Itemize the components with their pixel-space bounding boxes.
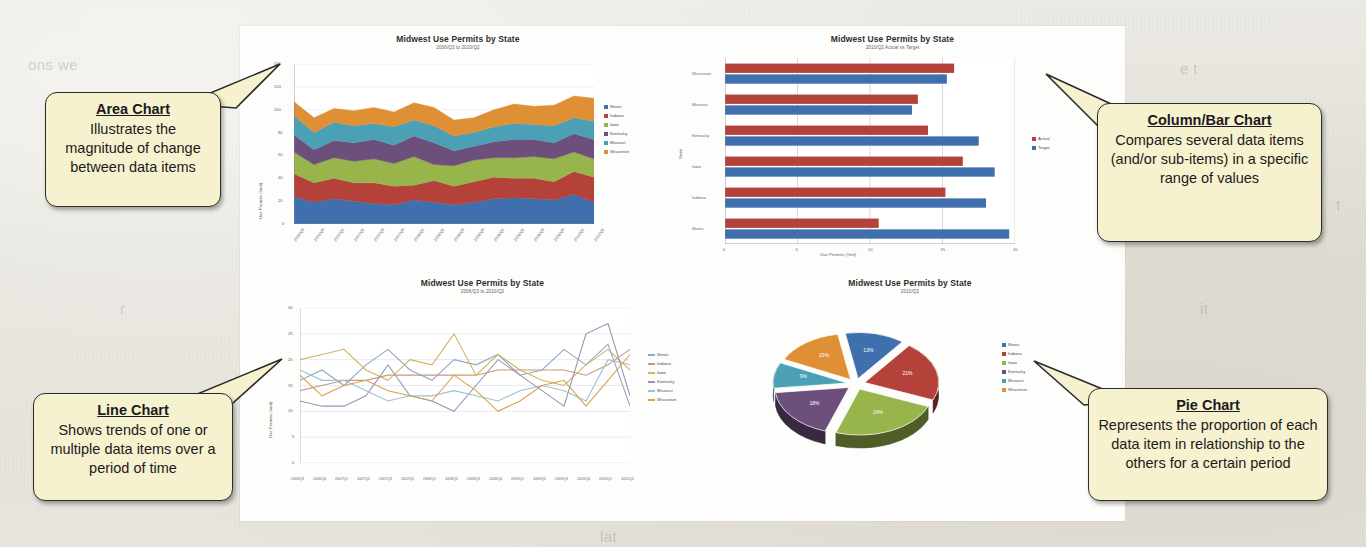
legend-item[interactable]: Missouri: [604, 138, 629, 147]
legend-swatch-icon: [1002, 361, 1006, 365]
legend-label: Wisconsin: [657, 397, 676, 402]
legend-item[interactable]: Indiana: [604, 111, 629, 120]
legend-item[interactable]: Kentucky: [604, 129, 629, 138]
axis-tick-label: 140: [274, 61, 281, 66]
axis-tick-label: 5: [796, 247, 798, 252]
legend-swatch-icon: [1002, 379, 1006, 383]
legend-swatch-icon: [1032, 146, 1036, 150]
axis-tick-label: 2006/Q3: [291, 477, 304, 481]
legend-label: Missouri: [610, 140, 626, 145]
area-chart-title: Midwest Use Permits by State: [248, 34, 668, 44]
ghost-text: e t: [1180, 60, 1198, 77]
line-chart-subtitle: 2006/Q3 to 2010/Q2: [260, 288, 705, 295]
callout-area-chart-body: Illustrates the magnitude of change betw…: [55, 120, 211, 177]
legend-swatch-icon: [1032, 137, 1036, 141]
callout-area-chart-title: Area Chart: [55, 100, 211, 119]
legend-item[interactable]: Iowa: [604, 120, 629, 129]
area-chart-subtitle: 2006/Q3 to 2010/Q2: [248, 44, 668, 51]
axis-tick-label: 2008/Q1: [413, 227, 426, 242]
legend-item[interactable]: Illinois: [1002, 340, 1027, 349]
legend-label: Missouri: [1008, 378, 1024, 383]
axis-tick-label: 0: [723, 247, 725, 252]
legend-label: Target: [1038, 145, 1050, 150]
axis-tick-label: Missouri: [692, 102, 708, 107]
callout-line-chart-body: Shows trends of one or multiple data ite…: [43, 421, 223, 478]
legend-item[interactable]: Iowa: [1002, 358, 1027, 367]
legend-swatch-icon: [604, 132, 608, 136]
legend-line-icon: [648, 390, 655, 392]
area-chart-plot: [294, 64, 594, 224]
legend-item[interactable]: Wisconsin: [648, 395, 676, 404]
legend-label: Wisconsin: [1008, 387, 1027, 392]
axis-tick-label: 2009/Q4: [553, 227, 566, 242]
axis-tick-label: 2010/Q2: [593, 227, 606, 242]
legend-item[interactable]: Missouri: [648, 386, 676, 395]
axis-tick-label: 15: [941, 247, 946, 252]
callout-column-bar-chart[interactable]: Column/Bar Chart Compares several data i…: [1097, 103, 1322, 242]
legend-item[interactable]: Indiana: [648, 359, 676, 368]
axis-tick-label: 5: [292, 434, 294, 439]
axis-tick-label: 2009/Q4: [577, 477, 590, 481]
axis-tick-label: 2006/Q4: [313, 477, 326, 481]
pie-chart: Midwest Use Permits by State 2010/Q2 13%…: [710, 278, 1110, 516]
legend-item[interactable]: Wisconsin: [1002, 385, 1027, 394]
axis-tick-label: 2010/Q1: [573, 227, 586, 242]
axis-tick-label: 2008/Q3: [453, 227, 466, 242]
axis-tick-label: Illinois: [692, 226, 704, 231]
legend-label: Iowa: [1008, 360, 1017, 365]
axis-tick-label: 2009/Q2: [513, 227, 526, 242]
axis-tick-label: 30: [288, 305, 293, 310]
callout-area-chart[interactable]: Area Chart Illustrates the magnitude of …: [45, 92, 221, 207]
legend-swatch-icon: [604, 150, 608, 154]
axis-tick-label: 2008/Q4: [489, 477, 502, 481]
legend-item[interactable]: Missouri: [1002, 376, 1027, 385]
axis-tick-label: 0: [292, 460, 294, 465]
axis-tick-label: 120: [274, 84, 281, 89]
axis-tick-label: 2009/Q3: [533, 227, 546, 242]
callout-pie-chart-body: Represents the proportion of each data i…: [1098, 416, 1318, 473]
line-chart-ylabel: Use Permits (#mil): [268, 402, 273, 438]
legend-item[interactable]: Kentucky: [648, 377, 676, 386]
legend-label: Indiana: [1008, 351, 1022, 356]
legend-label: Illinois: [1008, 342, 1020, 347]
axis-tick-label: Wisconsin: [692, 71, 711, 76]
legend-item[interactable]: Illinois: [604, 102, 629, 111]
legend-swatch-icon: [1002, 370, 1006, 374]
legend-item[interactable]: Kentucky: [1002, 367, 1027, 376]
axis-tick-label: 15: [288, 383, 293, 388]
callout-pie-chart[interactable]: Pie Chart Represents the proportion of e…: [1088, 388, 1328, 501]
legend-swatch-icon: [1002, 343, 1006, 347]
axis-tick-label: 2009/Q1: [493, 227, 506, 242]
legend-item[interactable]: Iowa: [648, 368, 676, 377]
legend-swatch-icon: [604, 141, 608, 145]
line-chart-plot: [300, 308, 630, 463]
line-chart: Midwest Use Permits by State 2006/Q3 to …: [260, 278, 705, 516]
area-chart-ylabel: Use Permits (#mil): [258, 183, 263, 219]
legend-label: Actual: [1038, 136, 1050, 141]
axis-tick-label: Kentucky: [692, 133, 709, 138]
legend-label: Indiana: [657, 361, 671, 366]
legend-item[interactable]: Actual: [1032, 134, 1050, 143]
axis-tick-label: Iowa: [692, 164, 701, 169]
ghost-text: lat: [600, 528, 617, 545]
axis-tick-label: 2006/Q4: [313, 227, 326, 242]
callout-line-chart-title: Line Chart: [43, 401, 223, 420]
legend-line-icon: [648, 363, 655, 365]
axis-tick-label: 2008/Q1: [423, 477, 436, 481]
legend-swatch-icon: [604, 105, 608, 109]
legend-label: Indiana: [610, 113, 624, 118]
legend-item[interactable]: Indiana: [1002, 349, 1027, 358]
legend-line-icon: [648, 399, 655, 401]
legend-swatch-icon: [1002, 388, 1006, 392]
axis-tick-label: 2007/Q4: [401, 477, 414, 481]
legend-item[interactable]: Target: [1032, 143, 1050, 152]
legend-label: Illinois: [610, 104, 622, 109]
area-chart: Midwest Use Permits by State 2006/Q3 to …: [248, 34, 668, 274]
line-chart-title: Midwest Use Permits by State: [260, 278, 705, 288]
legend-item[interactable]: Illinois: [648, 350, 676, 359]
legend-swatch-icon: [1002, 352, 1006, 356]
callout-line-chart[interactable]: Line Chart Shows trends of one or multip…: [33, 393, 233, 501]
pie-chart-title: Midwest Use Permits by State: [710, 278, 1110, 288]
legend-item[interactable]: Wisconsin: [604, 147, 629, 156]
pie-slice-label: 24%: [873, 409, 884, 415]
